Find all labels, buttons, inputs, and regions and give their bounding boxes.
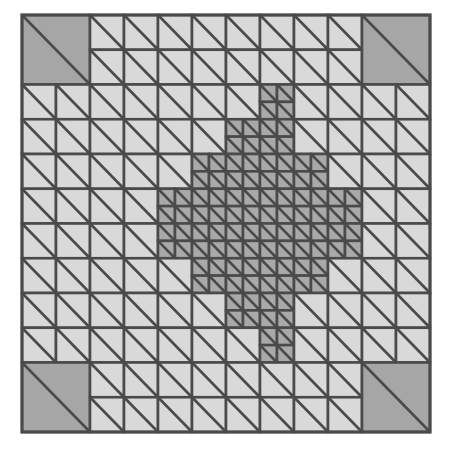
mesh-svg <box>0 0 453 454</box>
mesh-figure <box>0 0 453 454</box>
